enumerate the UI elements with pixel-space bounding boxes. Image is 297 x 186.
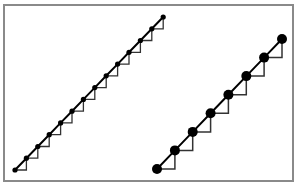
data-point bbox=[69, 109, 74, 114]
data-point bbox=[92, 85, 97, 90]
data-point bbox=[152, 164, 162, 174]
series-layer bbox=[12, 14, 287, 174]
data-point bbox=[115, 62, 120, 67]
data-point bbox=[188, 127, 198, 137]
fine-staircase bbox=[12, 14, 165, 172]
data-point bbox=[170, 145, 180, 155]
data-point bbox=[161, 14, 166, 19]
data-point bbox=[104, 73, 109, 78]
data-point bbox=[149, 26, 154, 31]
data-point bbox=[241, 71, 251, 81]
staircase-diagram bbox=[0, 0, 297, 186]
data-point bbox=[58, 120, 63, 125]
data-point bbox=[206, 108, 216, 118]
data-point bbox=[138, 38, 143, 43]
data-point bbox=[47, 132, 52, 137]
data-point bbox=[277, 34, 287, 44]
data-point bbox=[24, 156, 29, 161]
data-point bbox=[35, 144, 40, 149]
data-point bbox=[223, 90, 233, 100]
data-point bbox=[126, 50, 131, 55]
data-point bbox=[259, 53, 269, 63]
data-point bbox=[81, 97, 86, 102]
coarse-staircase bbox=[152, 34, 287, 174]
data-point bbox=[12, 167, 17, 172]
